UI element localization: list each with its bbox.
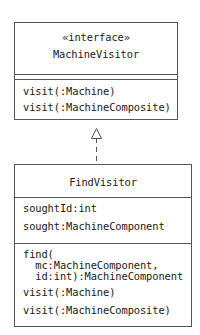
attributes-operations-divider [15,243,191,244]
class-box-find-visitor: FindVisitor soughtId:int sought:MachineC… [14,164,192,327]
name-attributes-divider [15,197,191,198]
hollow-triangle-arrowhead-icon [92,129,102,139]
attribute-sought-id: soughtId:int [23,202,97,215]
attribute-sought: sought:MachineComponent [23,220,165,233]
operation-visit-machine-composite: visit(:MachineComposite) [23,304,171,317]
class-name: FindVisitor [15,176,191,189]
operation-find-line-3: id:int):MachineComponent [23,271,183,282]
operation-visit-machine: visit(:Machine) [23,286,115,299]
